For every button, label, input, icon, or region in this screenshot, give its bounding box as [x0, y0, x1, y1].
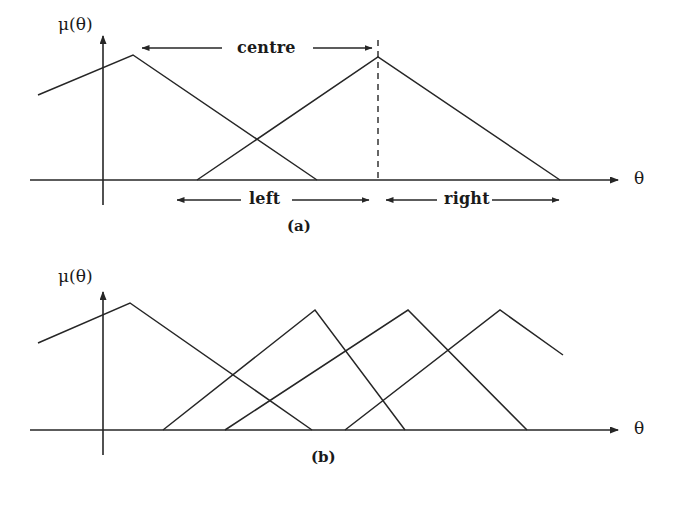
panel-b-membership-curve-3 — [225, 310, 527, 430]
panel-a-caption: (a) — [287, 217, 311, 235]
panel-b-group — [30, 292, 618, 455]
panel-b-y-axis-label: μ(θ) — [58, 266, 93, 286]
panel-a-centre-annotation: centre — [237, 38, 296, 57]
panel-a-right-annotation: right — [444, 189, 490, 208]
figure-svg — [0, 0, 678, 505]
panel-b-caption: (b) — [311, 448, 336, 466]
panel-a-left-annotation: left — [249, 189, 280, 208]
panel-b-x-axis-label: θ — [634, 418, 644, 438]
panel-a-group — [30, 36, 618, 205]
panel-b-membership-curve-1 — [38, 303, 312, 430]
panel-a-y-axis-label: μ(θ) — [58, 14, 93, 34]
panel-b-membership-curve-4 — [345, 310, 563, 430]
panel-a-membership-curve-1 — [38, 55, 317, 180]
panel-a-x-axis-label: θ — [634, 168, 644, 188]
figure-root: μ(θ) θ centre left right (a) μ(θ) θ (b) — [0, 0, 678, 505]
